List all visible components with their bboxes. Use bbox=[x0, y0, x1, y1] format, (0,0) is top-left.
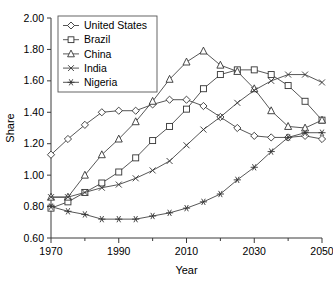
share-by-country-line-chart: 0.600.801.001.201.401.601.802.00 1970199… bbox=[0, 0, 333, 285]
chart-container: 0.600.801.001.201.401.601.802.00 1970199… bbox=[0, 0, 333, 285]
legend-label: Nigeria bbox=[84, 76, 117, 88]
series-nigeria bbox=[47, 130, 325, 223]
legend-label: Brazil bbox=[84, 33, 110, 45]
legend-label: India bbox=[84, 62, 107, 74]
y-tick-label: 1.40 bbox=[24, 106, 45, 118]
legend-label: China bbox=[84, 48, 112, 60]
y-axis-title: Share bbox=[4, 113, 16, 142]
y-tick-label: 1.80 bbox=[24, 43, 45, 55]
y-tick-label: 0.80 bbox=[24, 200, 45, 212]
y-axis: 0.600.801.001.201.401.601.802.00 bbox=[24, 12, 51, 244]
y-tick-label: 2.00 bbox=[24, 12, 45, 24]
x-axis-title: Year bbox=[175, 264, 198, 276]
x-tick-label: 2050 bbox=[310, 245, 333, 257]
x-tick-label: 2030 bbox=[243, 245, 267, 257]
y-tick-label: 0.60 bbox=[24, 232, 45, 244]
x-axis: 19701990201020302050 bbox=[39, 238, 333, 257]
x-tick-label: 1990 bbox=[107, 245, 131, 257]
x-tick-label: 2010 bbox=[175, 245, 199, 257]
y-tick-label: 1.20 bbox=[24, 137, 45, 149]
x-tick-label: 1970 bbox=[39, 245, 63, 257]
chart-legend: United StatesBrazilChinaIndiaNigeria bbox=[58, 16, 157, 92]
y-tick-label: 1.00 bbox=[24, 169, 45, 181]
y-tick-label: 1.60 bbox=[24, 74, 45, 86]
legend-label: United States bbox=[84, 19, 147, 31]
series-united-states bbox=[47, 96, 325, 158]
